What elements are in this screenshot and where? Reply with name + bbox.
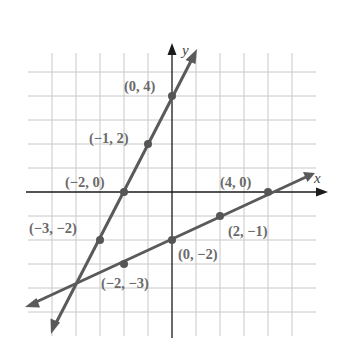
label-2-m1: (2, −1) <box>228 223 268 240</box>
point-0-4 <box>168 92 176 100</box>
point-m2-m3 <box>120 260 128 268</box>
point-m2-0 <box>120 188 128 196</box>
y-axis-arrow-icon <box>168 43 177 55</box>
point-0-m2 <box>168 236 176 244</box>
label-0-4: (0, 4) <box>124 78 156 95</box>
point-m3-m2 <box>96 236 104 244</box>
label-4-0: (4, 0) <box>220 174 252 191</box>
point-m1-2 <box>144 140 152 148</box>
label-m3-m2: (−3, −2) <box>29 220 77 237</box>
label-m2-0: (−2, 0) <box>65 174 105 191</box>
x-axis-label: x <box>313 170 321 186</box>
point-2-m1 <box>216 212 224 220</box>
arrowhead-icon <box>25 298 40 308</box>
label-m2-m3: (−2, −3) <box>101 275 149 292</box>
label-0-m2: (0, −2) <box>178 246 218 263</box>
y-axis-label: y <box>180 42 189 58</box>
point-4-0 <box>264 188 272 196</box>
coordinate-plane: x y (0, 4) (−1, 2) (−2, 0) (−3, −2) (4, … <box>0 0 338 350</box>
x-axis-arrow-icon <box>316 188 328 197</box>
label-m1-2: (−1, 2) <box>89 130 129 147</box>
